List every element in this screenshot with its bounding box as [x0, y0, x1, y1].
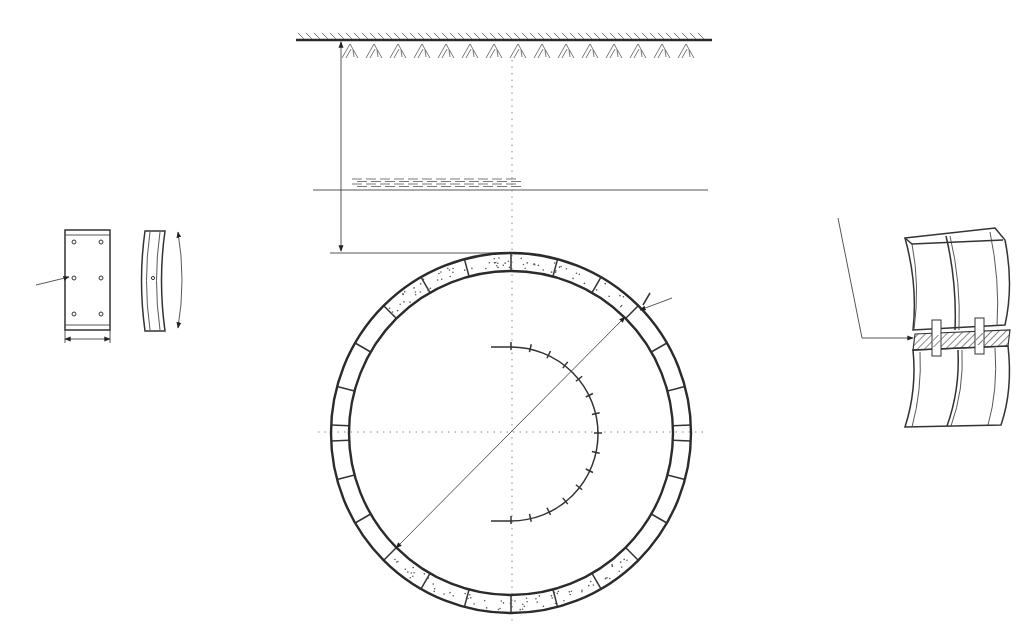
- stipple-dot: [394, 559, 396, 561]
- segment-side-line: [157, 232, 161, 330]
- ground-hatch-stroke: [594, 33, 600, 39]
- ground-hatch-stroke: [602, 33, 608, 39]
- stipple-dot: [464, 593, 466, 595]
- soil-symbol: [414, 44, 430, 58]
- stipple-dot: [555, 271, 557, 273]
- stipple-dot: [412, 575, 414, 577]
- stipple-dot: [447, 267, 449, 269]
- diameter-dimension-arrow: [396, 317, 625, 548]
- segment-joint: [667, 386, 684, 391]
- ground-hatch-stroke: [570, 33, 576, 39]
- segment-joint: [667, 475, 684, 480]
- stipple-dot: [623, 559, 625, 561]
- stipple-dot: [524, 268, 526, 270]
- stipple-dot: [399, 303, 401, 305]
- segment-side-outline: [142, 231, 166, 331]
- ground-hatch-stroke: [642, 33, 648, 39]
- ground-hatch-stroke: [402, 33, 408, 39]
- ground-hatch-stroke: [482, 33, 488, 39]
- stipple-dot: [579, 273, 581, 275]
- ground-surface: [296, 33, 712, 58]
- stipple-dot: [473, 603, 475, 605]
- soil-symbol: [366, 44, 382, 58]
- stipple-dot: [419, 291, 421, 293]
- segment-joint: [673, 440, 691, 441]
- stipple-dot: [452, 595, 454, 597]
- ground-hatch-stroke: [538, 33, 544, 39]
- stipple-dot: [609, 578, 611, 580]
- stipple-dot: [415, 294, 417, 296]
- stipple-dot: [557, 593, 559, 595]
- stipple-dot: [402, 293, 404, 295]
- stipple-dot: [555, 270, 557, 272]
- bolt-hole-leader: [36, 277, 69, 285]
- stipple-dot: [571, 590, 573, 592]
- stipple-dot: [449, 269, 451, 271]
- bolt-hole: [99, 312, 103, 316]
- ground-hatch-stroke: [434, 33, 440, 39]
- stipple-dot: [503, 602, 505, 604]
- stipple-dot: [438, 273, 440, 275]
- thickness-arrow: [640, 298, 672, 310]
- ground-hatch-stroke: [562, 33, 568, 39]
- stipple-dot: [522, 603, 524, 605]
- thickness-tick: [643, 293, 650, 305]
- thickness-dimension: [640, 293, 672, 310]
- soil-symbol: [510, 44, 526, 58]
- stipple-dot: [626, 559, 628, 561]
- segment-joint: [337, 386, 354, 391]
- ground-hatch-stroke: [698, 33, 704, 39]
- stipple-dot: [441, 279, 443, 281]
- ground-hatch-stroke: [650, 33, 656, 39]
- bolt-hole: [151, 276, 154, 279]
- stipple-dot: [569, 594, 571, 596]
- stipple-dot: [486, 607, 488, 609]
- soil-symbol: [462, 44, 478, 58]
- stipple-dot: [449, 276, 451, 278]
- stipple-dot: [618, 570, 620, 572]
- stipple-dot: [413, 287, 415, 289]
- ground-hatch-stroke: [466, 33, 472, 39]
- stipple-dot: [588, 585, 590, 587]
- block-joint-line: [947, 350, 958, 426]
- bolt-hole: [72, 240, 76, 244]
- stipple-dot: [534, 263, 536, 265]
- stipple-dot: [389, 307, 391, 309]
- stipple-dot: [488, 262, 490, 264]
- angle-arc-path: [491, 347, 598, 521]
- stipple-dot: [452, 271, 454, 273]
- segment-joint: [651, 514, 667, 523]
- bolt-hole: [72, 312, 76, 316]
- stipple-dot: [464, 269, 466, 271]
- stipple-dot: [590, 581, 592, 583]
- stipple-dot: [409, 577, 411, 579]
- stipple-dot: [443, 593, 445, 595]
- soil-symbol: [534, 44, 550, 58]
- ground-hatch-icon: [298, 33, 704, 39]
- stipple-dot: [396, 561, 398, 563]
- segment-joint: [626, 306, 639, 319]
- stipple-dot: [554, 595, 556, 597]
- ground-hatch-stroke: [490, 33, 496, 39]
- stipple-dot: [619, 295, 621, 297]
- bolt-holes: [72, 240, 103, 316]
- stipple-dot: [410, 572, 412, 574]
- stipple-dot: [430, 288, 432, 290]
- bolt-hole: [99, 240, 103, 244]
- stipple-dot: [427, 290, 429, 292]
- block-line: [990, 232, 998, 326]
- ground-hatch-stroke: [506, 33, 512, 39]
- stipple-dot: [620, 561, 622, 563]
- stipple-dot: [596, 289, 598, 291]
- stipple-dot: [608, 296, 610, 298]
- segment-joint: [553, 259, 558, 276]
- ground-hatch-stroke: [690, 33, 696, 39]
- stipple-dot: [415, 291, 417, 293]
- segment-joint: [331, 425, 349, 426]
- upper-block-top-edge: [905, 238, 1003, 244]
- ground-hatch-stroke: [498, 33, 504, 39]
- water-table: [313, 179, 708, 190]
- angle-arc-tick: [592, 451, 600, 453]
- stipple-dot: [432, 583, 434, 585]
- ground-hatch-stroke: [626, 33, 632, 39]
